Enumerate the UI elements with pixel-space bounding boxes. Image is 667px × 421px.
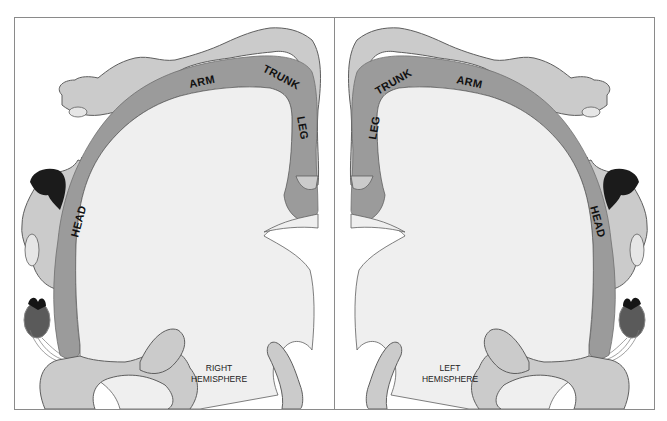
- open-mouth: [25, 234, 39, 266]
- panel-left-hemisphere: ARM TRUNK LEG HEAD LEFT HEMISPHERE: [349, 28, 648, 409]
- homunculus-figure: ARM TRUNK LEG HEAD RIGHT HEMISPHERE: [0, 0, 667, 421]
- caption-line2: HEMISPHERE: [191, 374, 248, 384]
- caption-line1: RIGHT: [206, 363, 232, 373]
- thumb-nail: [69, 107, 87, 117]
- caption-line2: HEMISPHERE: [422, 374, 479, 384]
- caption-line1: LEFT: [440, 363, 461, 373]
- thumb-nail: [582, 107, 600, 117]
- open-mouth: [630, 234, 644, 266]
- panel-right-hemisphere: ARM TRUNK LEG HEAD RIGHT HEMISPHERE: [22, 28, 321, 409]
